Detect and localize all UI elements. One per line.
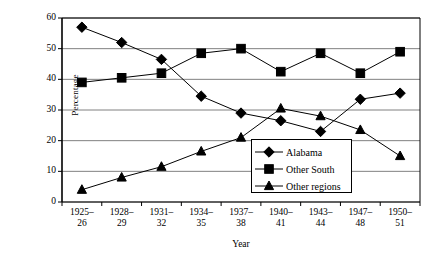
marker-triangle: [276, 103, 285, 112]
legend-marker-diamond-icon: [252, 143, 286, 161]
legend-item-other-regions[interactable]: Other regions: [252, 177, 353, 195]
marker-square: [356, 69, 365, 78]
marker-square: [117, 74, 126, 83]
line-chart: Percentage Year 6050403020100 1925–26192…: [0, 0, 439, 261]
legend-label: Other South: [286, 164, 335, 175]
marker-triangle: [157, 162, 166, 171]
marker-square: [157, 69, 166, 78]
marker-square: [316, 49, 325, 58]
series-line: [82, 49, 400, 83]
legend-label: Other regions: [286, 181, 341, 192]
legend-marker-square-icon: [252, 160, 286, 178]
marker-diamond: [315, 126, 325, 136]
data-series-layer: [77, 22, 406, 193]
marker-square: [78, 78, 87, 87]
marker-triangle: [236, 133, 245, 142]
marker-triangle: [396, 151, 405, 160]
marker-diamond: [355, 94, 365, 104]
legend-item-alabama[interactable]: Alabama: [252, 143, 353, 161]
legend-marker-triangle-icon: [252, 177, 286, 195]
legend-label: Alabama: [286, 147, 322, 158]
legend: AlabamaOther SouthOther regions: [251, 139, 352, 193]
series-other-south: [78, 44, 405, 86]
marker-diamond: [264, 147, 274, 157]
marker-square: [265, 165, 274, 174]
legend-item-other-south[interactable]: Other South: [252, 160, 353, 178]
x-tick-marks: [62, 202, 420, 206]
marker-square: [237, 44, 246, 53]
marker-square: [276, 67, 285, 76]
marker-diamond: [236, 108, 246, 118]
plot-area: [0, 0, 439, 261]
marker-diamond: [116, 37, 126, 47]
marker-triangle: [264, 181, 273, 190]
marker-diamond: [77, 22, 87, 32]
marker-diamond: [276, 116, 286, 126]
marker-square: [197, 49, 206, 58]
marker-diamond: [395, 88, 405, 98]
marker-square: [396, 47, 405, 56]
